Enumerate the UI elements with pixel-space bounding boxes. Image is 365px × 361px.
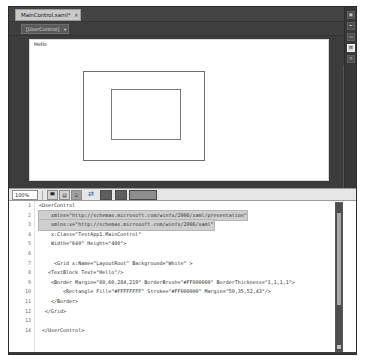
code-line[interactable]: 2 xmlns="http://schemas.microsoft.com/wi… <box>9 211 357 221</box>
split-toolbar: 100% ▀ ▤ ⌸ ⇄ <box>9 188 357 201</box>
code-line[interactable]: 13 <box>9 316 357 326</box>
line-number: 2 <box>9 211 31 221</box>
line-text[interactable]: <TextBlock Text="Hello"/> <box>39 268 123 278</box>
chevron-down-icon[interactable]: ▾ <box>64 25 66 35</box>
swap-panes-icon[interactable]: ⇄ <box>85 190 97 200</box>
line-text[interactable]: x:Class="TestApp1.MainControl" <box>39 230 141 240</box>
view-design-button[interactable]: ▀ <box>47 190 58 200</box>
code-line[interactable]: 5 Width="640" Height="480"> <box>9 239 357 249</box>
zoom-level-input[interactable]: 100% <box>12 190 38 200</box>
data-icon[interactable]: ▭ <box>347 33 355 41</box>
line-number: 14 <box>9 326 31 336</box>
close-icon[interactable]: ✕ <box>74 11 78 20</box>
line-number: 13 <box>9 316 31 326</box>
line-text[interactable]: </Grid> <box>39 307 66 317</box>
code-line[interactable]: 3 xmlns:x="http://schemas.microsoft.com/… <box>9 220 357 230</box>
toolbar-separator <box>42 191 43 200</box>
tab-strip: MainControl.xaml* ✕ <box>9 7 357 22</box>
code-line[interactable]: 4 x:Class="TestApp1.MainControl" <box>9 230 357 240</box>
code-scroll-end-marker[interactable] <box>337 345 341 349</box>
code-editor[interactable]: 1<UserControl 2 xmlns="http://schemas.mi… <box>9 201 357 354</box>
splitter-handle[interactable] <box>129 190 157 200</box>
line-text[interactable]: </UserControl> <box>39 326 84 336</box>
app-root: MainControl.xaml* ✕ [UserControl] ▾ Hell… <box>0 0 365 361</box>
code-line[interactable]: 11 </Border> <box>9 297 357 307</box>
code-line[interactable]: 10 <Rectangle Fill="#FFFFFFFF" Stroke="#… <box>9 287 357 297</box>
editor-window: MainControl.xaml* ✕ [UserControl] ▾ Hell… <box>8 6 357 355</box>
orientation-vertical-button[interactable] <box>115 190 127 200</box>
line-number: 3 <box>9 220 31 230</box>
breadcrumb-label: [UserControl] <box>26 26 59 32</box>
line-number: 5 <box>9 239 31 249</box>
objects-icon[interactable]: ≡ <box>347 55 355 63</box>
orientation-horizontal-button[interactable] <box>100 190 112 200</box>
view-split-button[interactable]: ▤ <box>59 190 70 200</box>
line-text[interactable]: <Rectangle Fill="#FFFFFFFF" Stroke="#FF0… <box>39 287 271 297</box>
code-line[interactable]: 6 <box>9 249 357 259</box>
line-text[interactable]: xmlns="http://schemas.microsoft.com/winf… <box>39 211 247 221</box>
assets-icon[interactable]: ⊞ <box>347 44 355 52</box>
designer-surface[interactable]: Hello ▲ ▼ <box>9 36 357 188</box>
line-text[interactable]: Width="640" Height="480"> <box>39 239 126 249</box>
view-code-button[interactable]: ⌸ <box>71 190 82 200</box>
line-number: 7 <box>9 259 31 269</box>
tab-label: MainControl.xaml* <box>21 12 70 18</box>
line-number: 1 <box>9 201 31 211</box>
code-line[interactable]: 8 <TextBlock Text="Hello"/> <box>9 268 357 278</box>
line-number: 9 <box>9 278 31 288</box>
line-number: 4 <box>9 230 31 240</box>
code-line[interactable]: 1<UserControl <box>9 201 357 211</box>
artboard-rectangle-shape[interactable] <box>111 89 181 140</box>
line-number: 8 <box>9 268 31 278</box>
line-number: 11 <box>9 297 31 307</box>
code-lines[interactable]: 1<UserControl 2 xmlns="http://schemas.mi… <box>9 201 357 354</box>
line-text[interactable]: <Border Margin="80,60,284,219" BorderBru… <box>39 278 295 288</box>
line-text[interactable]: xmlns:x="http://schemas.microsoft.com/wi… <box>39 220 214 230</box>
resources-icon[interactable]: ✒ <box>347 22 355 30</box>
code-line[interactable]: 7 <Grid x:Name="LayoutRoot" Background="… <box>9 259 357 269</box>
artboard-border-shape[interactable] <box>83 71 205 161</box>
line-number: 10 <box>9 287 31 297</box>
tab-maincontrol-xaml[interactable]: MainControl.xaml* ✕ <box>15 9 81 21</box>
line-text[interactable]: <UserControl <box>39 201 75 211</box>
code-vertical-scrollbar[interactable] <box>335 202 343 352</box>
line-text[interactable]: </Border> <box>39 297 78 307</box>
artboard-textblock[interactable]: Hello <box>34 41 47 48</box>
window-bottom-edge <box>9 352 357 354</box>
properties-icon[interactable]: ▣ <box>347 11 355 19</box>
code-line[interactable]: 12 </Grid> <box>9 307 357 317</box>
line-text[interactable]: <Grid x:Name="LayoutRoot" Background="Wh… <box>39 259 193 269</box>
artboard[interactable]: Hello <box>29 39 329 181</box>
breadcrumb-item-usercontrol[interactable]: [UserControl] ▾ <box>21 24 69 34</box>
breadcrumb: [UserControl] ▾ <box>9 22 357 36</box>
code-line[interactable]: 9 <Border Margin="80,60,284,219" BorderB… <box>9 278 357 288</box>
line-number: 6 <box>9 249 31 259</box>
code-line[interactable]: 14 </UserControl> <box>9 326 357 336</box>
line-number: 12 <box>9 307 31 317</box>
code-scroll-thumb[interactable] <box>337 213 341 305</box>
